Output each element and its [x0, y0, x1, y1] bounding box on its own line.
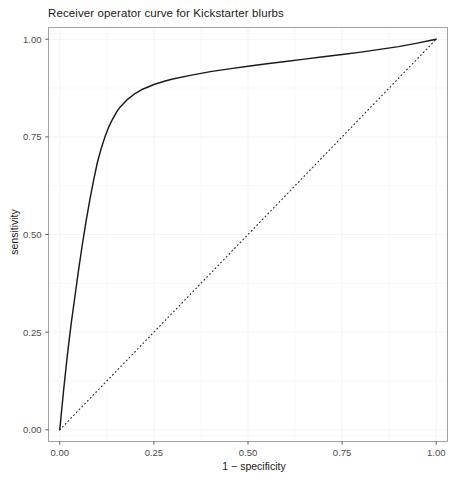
x-tick-label: 0.75 [333, 447, 352, 458]
y-axis-title: sensitivity [8, 208, 20, 254]
x-tick-label: 1.00 [427, 447, 446, 458]
y-tick-label: 0.50 [23, 229, 42, 240]
roc-chart: Receiver operator curve for Kickstarter … [0, 0, 464, 481]
y-tick-label: 0.75 [23, 131, 42, 142]
x-tick-label: 0.00 [51, 447, 70, 458]
x-tick-label: 0.25 [145, 447, 164, 458]
y-tick-label: 1.00 [23, 34, 42, 45]
x-axis-title: 1 − specificity [222, 460, 286, 472]
plot-svg: 0.000.250.500.751.000.000.250.500.751.00… [0, 0, 464, 481]
x-tick-label: 0.50 [239, 447, 258, 458]
y-tick-label: 0.00 [23, 424, 42, 435]
y-tick-label: 0.25 [23, 327, 42, 338]
